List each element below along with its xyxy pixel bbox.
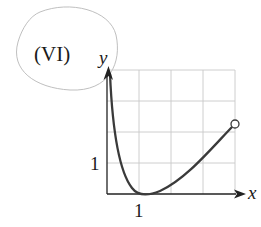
x-tick-label: 1 — [134, 200, 144, 221]
x-axis-label: x — [247, 182, 257, 203]
graph-figure: (VI) y x 1 1 — [0, 0, 261, 227]
y-tick-label: 1 — [90, 153, 100, 174]
open-endpoint-marker — [231, 120, 239, 128]
y-axis-label: y — [97, 47, 108, 68]
figure-label: (VI) — [34, 42, 70, 66]
curve-up-arrow-icon — [104, 66, 114, 80]
